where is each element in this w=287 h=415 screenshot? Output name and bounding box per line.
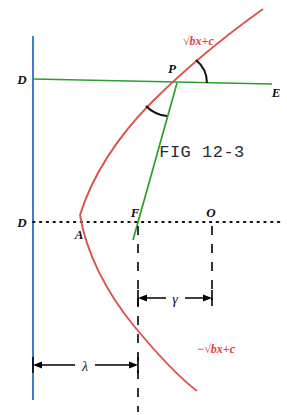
gamma-arrowhead-right: [203, 295, 212, 302]
figure-svg: γ λ D E P D A F O √bx+c −√bx+c FIG 12-3: [0, 0, 287, 415]
lambda-label: λ: [81, 359, 88, 374]
label-curve-lower: −√bx+c: [197, 342, 236, 356]
gamma-label: γ: [172, 292, 178, 307]
lambda-arrowhead-left: [33, 362, 42, 369]
label-point-O: O: [206, 205, 216, 220]
label-point-D-lower: D: [16, 215, 27, 230]
angle-arc-lower-left: [146, 106, 167, 116]
gamma-arrowhead-left: [138, 295, 147, 302]
green-line-DE: [33, 79, 272, 84]
red-curve-upper-branch: [80, 9, 263, 215]
dimension-lambda: λ: [33, 355, 138, 375]
lambda-arrowhead-right: [129, 362, 138, 369]
figure-caption: FIG 12-3: [159, 143, 245, 162]
label-point-D-upper: D: [16, 72, 27, 87]
label-point-F: F: [130, 205, 140, 220]
dimension-gamma: γ: [138, 288, 212, 308]
label-point-E: E: [271, 85, 281, 100]
figure-container: γ λ D E P D A F O √bx+c −√bx+c FIG 12-3: [0, 0, 287, 415]
label-curve-upper: √bx+c: [183, 34, 214, 48]
label-point-P: P: [168, 61, 177, 76]
angle-arc-upper-right: [196, 60, 207, 83]
label-point-A: A: [74, 227, 84, 242]
